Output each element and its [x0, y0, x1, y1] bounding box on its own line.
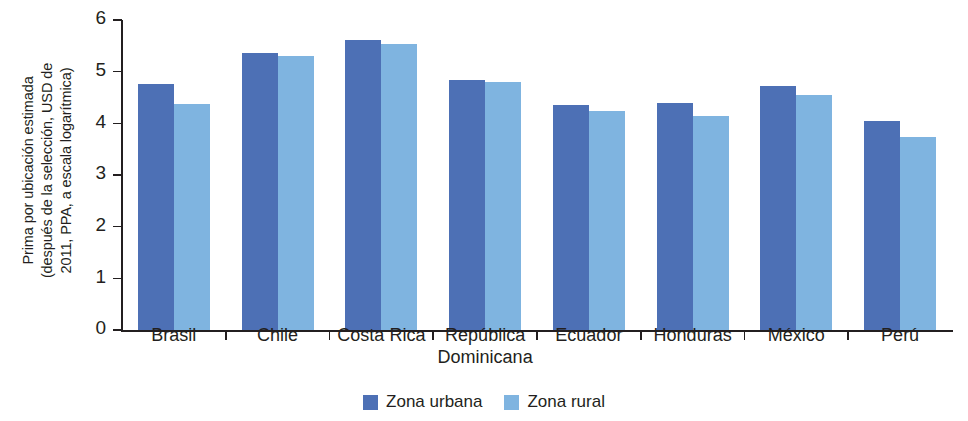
- bar-rural: [485, 82, 521, 330]
- legend-item[interactable]: Zona urbana: [363, 392, 482, 412]
- legend-swatch-icon: [363, 395, 378, 410]
- y-axis-label-line-1: Prima por ubicación estimada: [19, 62, 38, 277]
- bar-group: [345, 20, 417, 330]
- chart-legend: Zona urbanaZona rural: [0, 392, 968, 412]
- y-axis-tick-label: 6: [76, 7, 106, 29]
- x-axis-category-label-line: Dominicana: [433, 346, 537, 368]
- y-axis-tick: 3: [113, 174, 122, 176]
- x-axis-category-label: Ecuador: [537, 324, 641, 346]
- bar-group: [449, 20, 521, 330]
- y-axis-tick: 0: [113, 329, 122, 331]
- bar-urban: [553, 105, 589, 330]
- bar-rural: [796, 95, 832, 330]
- x-axis-category-label-line: Honduras: [654, 325, 732, 345]
- y-axis-tick-label: 5: [76, 59, 106, 81]
- x-axis-category-label-line: República: [445, 325, 525, 345]
- bar-urban: [864, 121, 900, 330]
- bar-urban: [657, 103, 693, 330]
- x-axis-category-label-line: Ecuador: [555, 325, 622, 345]
- x-axis-category-label: Perú: [848, 324, 952, 346]
- x-axis-category-label-line: Perú: [881, 325, 919, 345]
- y-axis-tick: 6: [113, 19, 122, 21]
- y-axis-tick-label: 3: [76, 162, 106, 184]
- bar-rural: [900, 137, 936, 330]
- y-axis-tick-label: 4: [76, 111, 106, 133]
- bar-group: [138, 20, 210, 330]
- y-axis-tick-label: 1: [76, 266, 106, 288]
- bar-group: [864, 20, 936, 330]
- bar-urban: [345, 40, 381, 330]
- legend-label: Zona rural: [527, 392, 604, 412]
- chart-figure: Prima por ubicación estimada (después de…: [0, 0, 968, 421]
- bar-group: [657, 20, 729, 330]
- bar-rural: [589, 111, 625, 330]
- bar-group: [553, 20, 625, 330]
- bar-rural: [174, 104, 210, 330]
- bar-rural: [381, 44, 417, 330]
- y-axis-tick: 5: [113, 71, 122, 73]
- y-axis-tick: 4: [113, 123, 122, 125]
- bar-urban: [449, 80, 485, 330]
- x-axis-category-label: Brasil: [122, 324, 226, 346]
- x-axis-category-label-line: Costa Rica: [337, 325, 425, 345]
- x-axis-category-label: RepúblicaDominicana: [433, 324, 537, 368]
- y-axis-label-line-3: 2011, PPA, a escala logarítmica): [57, 62, 76, 277]
- y-axis-tick-label: 2: [76, 214, 106, 236]
- y-axis-tick: 1: [113, 278, 122, 280]
- y-axis-tick-label: 0: [76, 317, 106, 339]
- x-axis-category-label-line: Chile: [257, 325, 298, 345]
- x-axis-category-label: México: [745, 324, 849, 346]
- bar-urban: [138, 84, 174, 330]
- bar-urban: [242, 53, 278, 330]
- bar-group: [242, 20, 314, 330]
- x-axis-category-label: Honduras: [641, 324, 745, 346]
- y-axis-tick: 2: [113, 226, 122, 228]
- plot-area: 0123456: [122, 20, 952, 330]
- x-axis-category-label: Chile: [226, 324, 330, 346]
- bar-rural: [278, 56, 314, 330]
- x-axis-category-label: Costa Rica: [330, 324, 434, 346]
- y-axis-label-line-2: (después de la selección, USD de: [38, 62, 57, 277]
- legend-item[interactable]: Zona rural: [504, 392, 604, 412]
- bar-urban: [760, 86, 796, 330]
- bar-rural: [693, 116, 729, 330]
- legend-label: Zona urbana: [386, 392, 482, 412]
- x-axis-category-label-line: México: [768, 325, 825, 345]
- x-axis-category-label-line: Brasil: [151, 325, 196, 345]
- bar-group: [760, 20, 832, 330]
- legend-swatch-icon: [504, 395, 519, 410]
